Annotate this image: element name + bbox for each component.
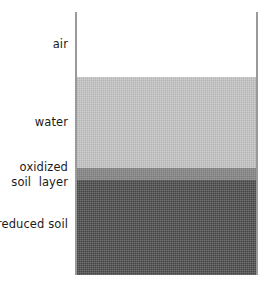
diagram-canvas: air water oxidized soil layer reduced so… [0, 0, 274, 288]
layer-water [76, 77, 257, 168]
layer-oxidized-soil [76, 168, 257, 180]
soil-column [75, 12, 258, 275]
label-air: air [53, 37, 68, 52]
label-water: water [35, 115, 68, 130]
layer-reduced-soil [76, 180, 257, 275]
label-oxidized-soil: oxidized soil layer [11, 160, 68, 190]
layer-air [76, 12, 257, 77]
label-reduced-soil: reduced soil [0, 217, 68, 232]
column-wall-right [256, 12, 258, 275]
column-wall-left [75, 12, 77, 275]
